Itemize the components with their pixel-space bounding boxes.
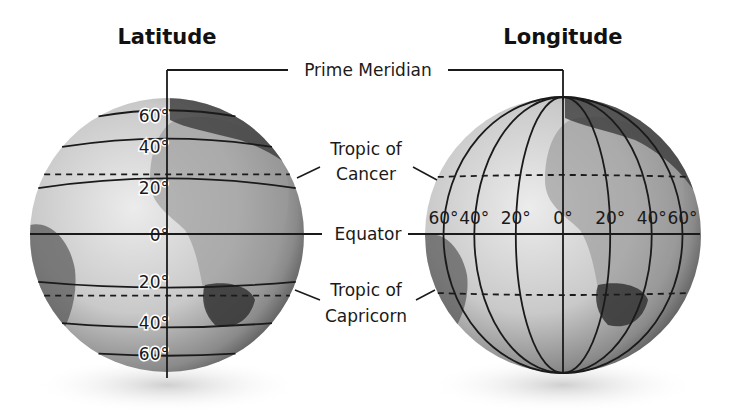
latitude-globe: 60°40°20°0°20°40°60° bbox=[30, 70, 305, 378]
longitude-globe: 60°40°20°0°20°40°60° bbox=[425, 70, 701, 373]
latitude-title: Latitude bbox=[117, 25, 216, 49]
meridian-label: 60° bbox=[428, 208, 458, 228]
parallel-label: 20° bbox=[139, 272, 169, 292]
tropic-of-capricorn-label-line2: Capricorn bbox=[325, 306, 407, 326]
parallel-label: 60° bbox=[139, 106, 169, 126]
tropic-of-cancer-leader-right bbox=[413, 167, 437, 180]
tropic-of-cancer-label-line1: Tropic of bbox=[329, 139, 403, 159]
parallel-label: 40° bbox=[139, 137, 169, 157]
meridian-label: 20° bbox=[501, 208, 531, 228]
meridian-label: 40° bbox=[459, 208, 489, 228]
meridian-label: 60° bbox=[667, 208, 697, 228]
prime-meridian-label: Prime Meridian bbox=[304, 60, 432, 80]
meridian-label: 40° bbox=[637, 208, 667, 228]
tropic-of-capricorn-leader-right bbox=[416, 290, 435, 300]
tropic-of-cancer-leader-left bbox=[297, 167, 320, 178]
tropic-of-capricorn-label-line1: Tropic of bbox=[329, 280, 403, 300]
parallel-label: 20° bbox=[139, 178, 169, 198]
parallel-label: 40° bbox=[139, 313, 169, 333]
equator-label: Equator bbox=[335, 224, 402, 244]
meridian-label: 0° bbox=[553, 208, 572, 228]
latitude-longitude-diagram: 60°40°20°0°20°40°60° 60°40°20°0°20°40°60… bbox=[0, 0, 729, 414]
tropic-of-cancer-label-line2: Cancer bbox=[336, 164, 396, 184]
tropic-of-capricorn-leader-left bbox=[295, 290, 320, 300]
parallel-label: 60° bbox=[139, 344, 169, 364]
meridian-label: 20° bbox=[595, 208, 625, 228]
longitude-title: Longitude bbox=[503, 25, 622, 49]
